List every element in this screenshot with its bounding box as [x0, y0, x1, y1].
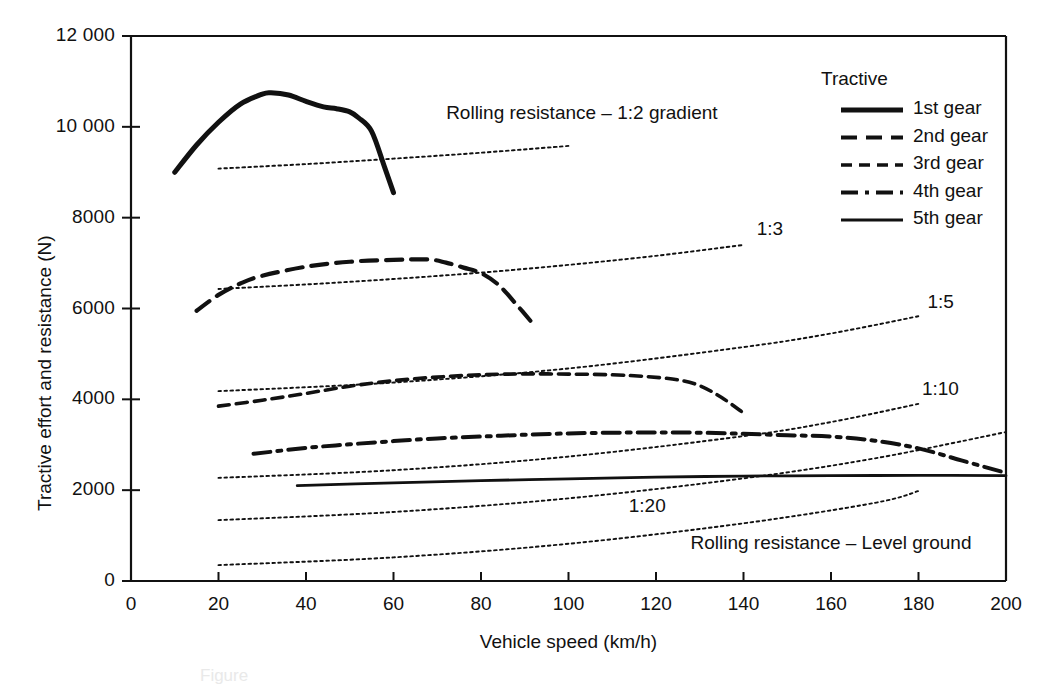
- x-tick-label: 120: [616, 593, 696, 615]
- x-axis-title: Vehicle speed (km/h): [369, 631, 769, 653]
- chart-annotation-label: 1:10: [922, 378, 959, 400]
- legend-title: Tractive: [821, 68, 888, 90]
- gear-curve: [197, 259, 534, 324]
- x-tick-label: 100: [529, 593, 609, 615]
- x-tick-label: 140: [704, 593, 784, 615]
- chart-annotation-label: 1:3: [757, 218, 783, 240]
- x-tick-label: 160: [791, 593, 871, 615]
- x-tick-label: 20: [179, 593, 259, 615]
- chart-annotation-label: 1:20: [629, 495, 666, 517]
- legend-item-label: 5th gear: [913, 207, 983, 229]
- figure-caption: Figure: [200, 666, 248, 686]
- y-tick-label: 12 000: [56, 24, 115, 46]
- legend-item-label: 4th gear: [913, 180, 983, 202]
- chart-annotation-label: 1:5: [927, 291, 953, 313]
- y-tick-label: 2000: [72, 478, 115, 500]
- legend-item-label: 2nd gear: [913, 125, 988, 147]
- x-tick-label: 60: [354, 593, 434, 615]
- gear-curve: [254, 432, 1007, 472]
- resistance-curve: [219, 404, 919, 478]
- resistance-lines-layer: [219, 146, 1007, 565]
- x-axis-ticks: [131, 572, 1006, 581]
- resistance-curve: [219, 491, 919, 565]
- legend-sample-lines: [841, 110, 903, 220]
- data-series-layer: [175, 93, 1006, 486]
- y-axis-title: Tractive effort and resistance (N): [34, 235, 56, 511]
- resistance-curve: [219, 316, 919, 391]
- x-tick-label: 80: [441, 593, 521, 615]
- x-tick-label: 40: [266, 593, 346, 615]
- gear-curve: [297, 475, 1006, 485]
- y-tick-label: 8000: [72, 206, 115, 228]
- chart-annotation-label: Rolling resistance – Level ground: [691, 532, 972, 554]
- chart-annotation-label: Rolling resistance – 1:2 gradient: [446, 102, 717, 124]
- x-tick-label: 0: [91, 593, 171, 615]
- y-tick-label: 6000: [72, 297, 115, 319]
- gear-curve: [219, 374, 744, 413]
- x-tick-label: 200: [966, 593, 1046, 615]
- gear-curve: [175, 93, 394, 193]
- legend-item-label: 3rd gear: [913, 152, 984, 174]
- x-tick-label: 180: [879, 593, 959, 615]
- y-tick-label: 4000: [72, 387, 115, 409]
- y-tick-label: 0: [104, 569, 115, 591]
- y-tick-label: 10 000: [56, 115, 115, 137]
- resistance-curve: [219, 146, 569, 169]
- legend-item-label: 1st gear: [913, 97, 982, 119]
